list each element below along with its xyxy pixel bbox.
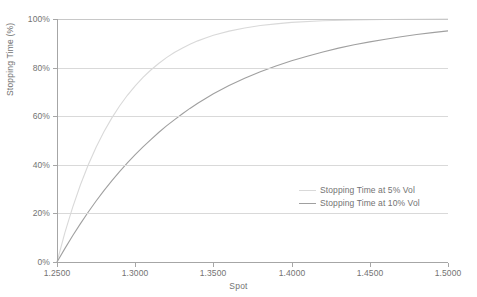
x-tick-label: 1.2500 (44, 269, 71, 278)
x-tick-label: 1.3000 (122, 269, 149, 278)
y-axis-line (57, 19, 58, 262)
y-tick-mark (53, 165, 57, 166)
y-tick-mark (53, 68, 57, 69)
legend-item[interactable]: Stopping Time at 5% Vol (299, 184, 420, 197)
x-tick-mark (135, 263, 136, 267)
x-tick-mark (213, 263, 214, 267)
y-tick-label: 20% (33, 209, 50, 218)
y-tick-label: 60% (33, 112, 50, 121)
plot-area (57, 19, 448, 262)
x-tick-mark (292, 263, 293, 267)
gridline (57, 213, 448, 214)
x-axis-title: Spot (0, 281, 477, 291)
y-tick-label: 0% (38, 258, 51, 267)
gridline (57, 68, 448, 69)
y-tick-label: 80% (33, 64, 50, 73)
x-tick-label: 1.4500 (357, 269, 384, 278)
legend-swatch-icon (299, 190, 316, 191)
y-tick-mark (53, 116, 57, 117)
legend-swatch-icon (299, 203, 316, 204)
y-tick-mark (53, 19, 57, 20)
legend-item-label: Stopping Time at 10% Vol (320, 199, 420, 208)
x-tick-mark (448, 263, 449, 267)
gridline (57, 116, 448, 117)
gridline (57, 19, 448, 20)
y-tick-label: 40% (33, 161, 50, 170)
y-tick-label: 100% (28, 15, 50, 24)
x-tick-mark (57, 263, 58, 267)
legend-item-label: Stopping Time at 5% Vol (320, 186, 415, 195)
chart-legend: Stopping Time at 5% Vol Stopping Time at… (299, 184, 420, 210)
x-axis-line (57, 262, 448, 263)
gridlines (57, 19, 448, 262)
chart-container: 0%20%40%60%80%100% 1.25001.30001.35001.4… (0, 0, 477, 297)
x-tick-label: 1.5000 (435, 269, 462, 278)
x-tick-label: 1.3500 (200, 269, 227, 278)
legend-item[interactable]: Stopping Time at 10% Vol (299, 197, 420, 210)
y-axis-title: Stopping Time (%) (5, 23, 15, 96)
x-tick-label: 1.4000 (279, 269, 306, 278)
gridline (57, 165, 448, 166)
y-tick-mark (53, 213, 57, 214)
x-tick-mark (370, 263, 371, 267)
